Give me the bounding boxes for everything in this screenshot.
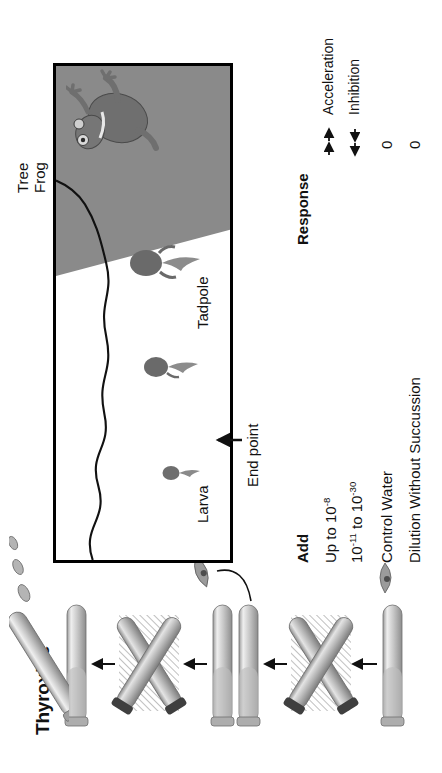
table-row: 10-11 to 10-30 <box>349 482 364 563</box>
add-value-prefix: Up to 10 <box>322 506 339 563</box>
response-acceleration-arrows <box>319 125 343 159</box>
larva-icon <box>160 460 202 486</box>
treefrog-label-line2: Frog <box>32 162 47 193</box>
response-inhibition-arrows <box>345 125 369 159</box>
column-header-add: Add <box>295 534 310 563</box>
add-value-exponent2: -30 <box>347 482 358 496</box>
tadpole-icon <box>142 350 200 384</box>
tadpole-label: Tadpole <box>195 276 210 329</box>
tadpole-icon <box>128 240 202 284</box>
test-tube-icon <box>381 605 404 726</box>
results-table: Add Response Up to 10-8 <box>261 43 411 563</box>
response-value: 0 <box>407 141 422 149</box>
transfer-path <box>217 570 251 601</box>
response-legend-inhibition: Inhibition <box>347 59 361 115</box>
treefrog-label: Tree Frog <box>15 162 47 193</box>
add-value-mid: to 10 <box>348 496 365 534</box>
table-row: Control Water <box>379 471 394 563</box>
column-header-response: Response <box>295 173 310 245</box>
figure-canvas: Thyroxine <box>9 15 433 759</box>
add-value-prefix: 10 <box>348 546 365 563</box>
response-legend-acceleration: Acceleration <box>321 38 335 115</box>
arrow-up-icon <box>213 431 243 449</box>
table-row: Up to 10-8 <box>323 498 338 563</box>
treefrog-label-line1: Tree <box>15 162 30 193</box>
droplet-icon <box>9 535 32 603</box>
succussion-cross-icon <box>111 613 188 715</box>
succussion-diagram <box>55 549 425 729</box>
add-value-exponent: -11 <box>347 533 358 546</box>
succussion-cross-icon <box>283 613 360 715</box>
frog-icon <box>66 68 162 168</box>
larva-label: Larva <box>195 485 210 523</box>
endpoint-label: End point <box>245 424 260 487</box>
rotated-figure-container: Thyroxine <box>9 15 433 759</box>
test-tube-icon <box>211 605 234 726</box>
table-row: Dilution Without Succussion <box>407 377 422 563</box>
succussion-sequence <box>55 559 415 729</box>
add-value-exponent: -8 <box>321 498 332 507</box>
figure-page: Thyroxine <box>0 0 442 773</box>
response-value: 0 <box>379 141 394 149</box>
dropper-icon <box>380 563 391 593</box>
test-tube-icon <box>237 605 260 726</box>
